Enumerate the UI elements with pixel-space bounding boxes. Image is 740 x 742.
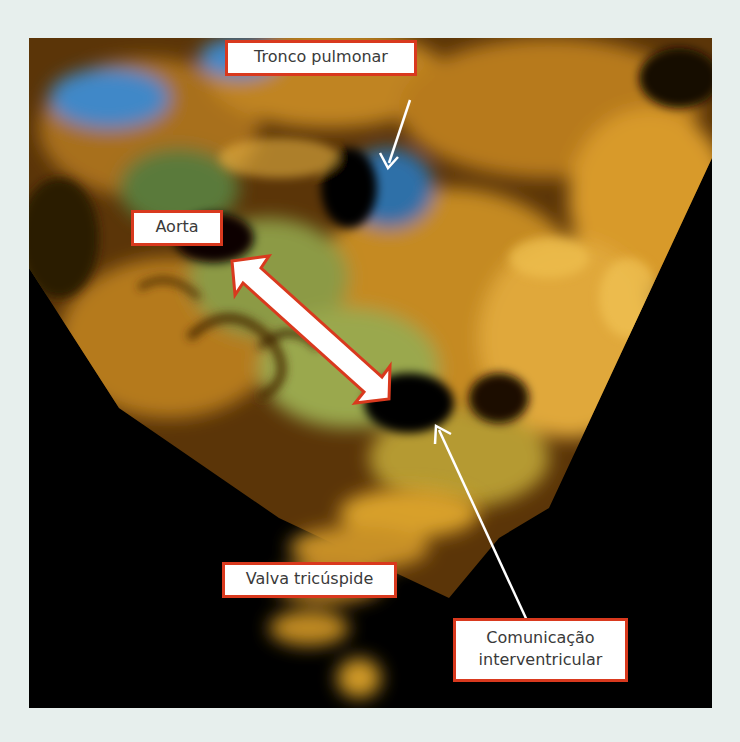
ultrasound-image	[29, 38, 712, 708]
label-valva-tricuspide: Valva tricúspide	[222, 562, 397, 598]
label-aorta: Aorta	[131, 210, 223, 246]
label-tronco-pulmonar: Tronco pulmonar	[225, 40, 417, 76]
echocardiogram-figure: Tronco pulmonar Aorta Valva tricúspide C…	[29, 38, 712, 708]
label-comunicacao-line2: interventricular	[479, 650, 603, 669]
label-comunicacao-line1: Comunicação	[486, 628, 594, 647]
label-comunicacao-interventricular: Comunicação interventricular	[453, 618, 628, 682]
